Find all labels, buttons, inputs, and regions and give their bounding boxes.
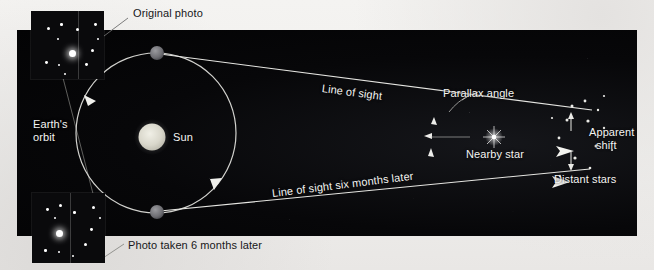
photo-star xyxy=(85,63,88,66)
label-photo-six-months-later: Photo taken 6 months later xyxy=(128,239,262,251)
orbit-direction-arrow-left xyxy=(84,95,96,106)
photo-star xyxy=(44,249,47,252)
original-photo-inset xyxy=(31,11,104,79)
photo-star xyxy=(91,49,94,52)
figure-canvas: Original photo Photo taken 6 months late… xyxy=(0,0,654,270)
photo-divider-line xyxy=(78,11,79,79)
line-of-sight-path xyxy=(160,54,592,110)
sun-disc xyxy=(139,124,166,151)
photo-star xyxy=(72,255,74,257)
label-apparent-shift-line1: Apparent xyxy=(589,126,634,138)
photo-star xyxy=(46,208,49,211)
label-earths-orbit-line2: orbit xyxy=(33,131,55,143)
photo-star xyxy=(90,228,93,231)
leader-line-original-photo xyxy=(104,18,128,36)
photo-star xyxy=(64,73,66,75)
earth-position-1 xyxy=(150,46,164,60)
earth-position-2 xyxy=(150,205,164,219)
leader-line-photo-link xyxy=(63,78,97,209)
apparent-shift-double-arrow xyxy=(568,112,574,171)
photo-bright-star xyxy=(56,230,63,237)
photo-star xyxy=(94,23,97,26)
photo-star xyxy=(58,64,60,66)
label-sun: Sun xyxy=(173,131,193,143)
label-earths-orbit-line1: Earth's xyxy=(33,118,68,130)
photo-star xyxy=(47,27,50,30)
photo-bright-star xyxy=(69,50,76,57)
label-parallax-angle: Parallax angle xyxy=(443,87,514,99)
photo-six-months-later-inset xyxy=(32,193,105,263)
photo-star xyxy=(97,38,99,40)
photo-star xyxy=(60,23,63,26)
photo-star xyxy=(54,217,56,219)
photo-star xyxy=(84,243,87,246)
orbit-direction-arrow-right xyxy=(210,178,222,190)
photo-star xyxy=(45,61,48,64)
photo-star xyxy=(59,204,62,207)
leader-line-photo-six-months xyxy=(103,244,124,258)
label-nearby-star: Nearby star xyxy=(466,148,524,160)
photo-divider-line xyxy=(70,193,71,263)
label-apparent-shift-line2: shift xyxy=(596,139,617,151)
angle-tick-lower xyxy=(428,148,434,157)
angle-tick-upper xyxy=(431,117,437,125)
photo-star xyxy=(58,251,60,253)
photo-star xyxy=(92,206,95,209)
nearby-star xyxy=(483,126,505,148)
angle-tick-middle xyxy=(424,133,432,139)
label-distant-stars: Distant stars xyxy=(554,173,616,185)
photo-star xyxy=(99,217,101,219)
label-original-photo: Original photo xyxy=(133,7,203,19)
photo-star xyxy=(57,38,59,40)
photo-star xyxy=(73,211,76,214)
